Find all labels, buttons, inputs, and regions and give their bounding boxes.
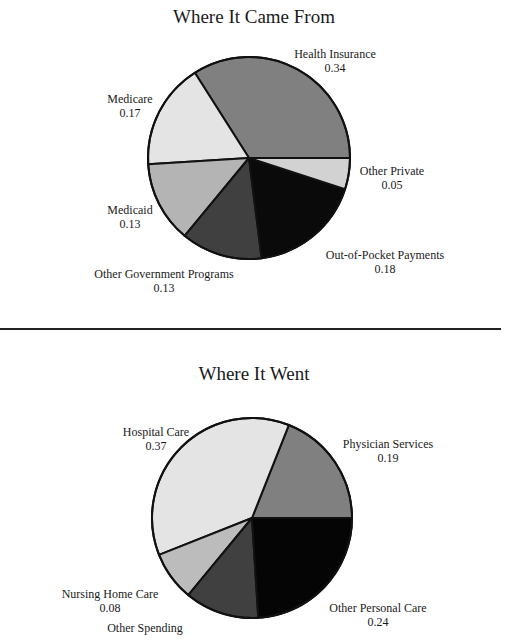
slice-label-name: Nursing Home Care	[62, 587, 159, 601]
slice-label-value: 0.37	[123, 439, 189, 453]
slice-label-nursing-home-care: Nursing Home Care0.08	[62, 587, 159, 615]
pie-chart-uses	[0, 0, 508, 643]
slice-label-other-spending: Other Spending	[107, 621, 183, 635]
slice-label-value: 0.24	[329, 615, 426, 629]
slice-label-name: Other Spending	[107, 621, 183, 635]
slice-label-value: 0.19	[343, 451, 433, 465]
slice-label-hospital-care: Hospital Care0.37	[123, 425, 189, 453]
slice-label-other-personal-care: Other Personal Care0.24	[329, 601, 426, 629]
slice-label-physician-services: Physician Services0.19	[343, 437, 433, 465]
slice-label-value: 0.08	[62, 601, 159, 615]
slice-label-name: Physician Services	[343, 437, 433, 451]
slice-label-name: Hospital Care	[123, 425, 189, 439]
slice-label-name: Other Personal Care	[329, 601, 426, 615]
